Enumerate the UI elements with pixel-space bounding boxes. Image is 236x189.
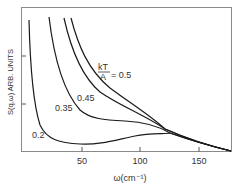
x-tick-label-150: 150	[191, 156, 206, 166]
label-0.2: 0.2	[32, 130, 45, 140]
x-tick-label-50: 50	[77, 156, 87, 166]
spectral-function-chart: kT A = 0.5 0.45 0.35 0.2 50 100 150 ω(cm…	[0, 0, 236, 189]
curve-kt-0.5	[71, 18, 231, 151]
label-kt-denominator: A	[100, 72, 106, 82]
x-axis-label: ω(cm⁻¹)	[113, 173, 146, 183]
label-kt-numerator: kT	[98, 62, 109, 72]
y-axis-label: S(q,ω) ARB. UNITS	[6, 49, 15, 115]
x-tick-label-100: 100	[132, 156, 147, 166]
label-0.35: 0.35	[55, 103, 73, 113]
label-kt-value: = 0.5	[111, 70, 131, 80]
label-0.45: 0.45	[77, 93, 95, 103]
curve-kt-0.2	[29, 20, 231, 151]
curve-kt-0.45	[64, 18, 231, 151]
